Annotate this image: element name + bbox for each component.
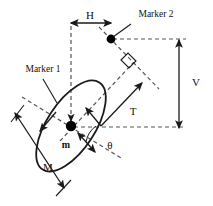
m-mass-label: m	[62, 139, 71, 150]
marker2-label: Marker 2	[138, 9, 173, 19]
marker2-dot	[107, 35, 116, 44]
marker2-leader-line	[113, 24, 131, 37]
m-dimension-arrow	[15, 113, 64, 188]
right-angle-marker-icon	[121, 53, 136, 68]
m-extension-bottom	[56, 180, 71, 196]
m-extension-top	[11, 105, 24, 122]
h-label: H	[86, 9, 94, 21]
marker1-leader-line	[43, 79, 57, 103]
marker1-center-dot	[66, 121, 76, 131]
m-major-label: M	[43, 161, 53, 173]
theta-label: θ	[107, 139, 112, 151]
diagram-canvas: H V T M m θ Marker 1 Marker 2	[0, 0, 213, 206]
marker1-label: Marker 1	[25, 64, 60, 74]
minor-axis-arrow-upper	[86, 108, 101, 126]
minor-axis-arrow-left	[40, 112, 56, 131]
pendulum-marker-diagram: H V T M m θ Marker 1 Marker 2	[0, 0, 213, 206]
t-label: T	[130, 105, 137, 117]
v-label: V	[192, 76, 200, 88]
